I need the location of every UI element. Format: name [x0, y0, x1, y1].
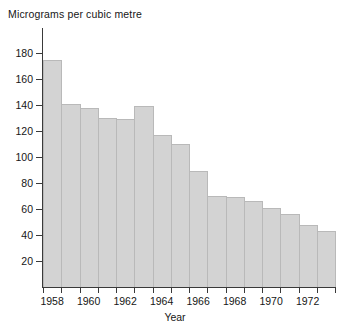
bar — [43, 60, 62, 288]
bar — [171, 144, 190, 287]
x-tick-label: 1972 — [296, 296, 319, 307]
x-tick-label: 1958 — [40, 296, 63, 307]
y-tick-label: 20 — [21, 256, 33, 266]
x-tick — [207, 288, 208, 293]
x-tick-label: 1966 — [186, 296, 209, 307]
x-tick — [134, 288, 135, 293]
bar — [189, 171, 208, 287]
bar — [80, 108, 99, 287]
bar — [134, 106, 153, 287]
y-tick — [36, 53, 42, 54]
y-tick-label: 40 — [21, 230, 33, 240]
x-tick-label: 1964 — [150, 296, 173, 307]
x-tick-label: 1968 — [223, 296, 246, 307]
bar — [116, 119, 135, 287]
y-tick-label: 120 — [15, 126, 33, 136]
y-tick — [36, 209, 42, 210]
y-tick — [36, 79, 42, 80]
bar — [207, 196, 226, 287]
y-tick-label: 180 — [15, 48, 33, 58]
x-tick-label: 1960 — [77, 296, 100, 307]
x-axis-title: Year — [0, 311, 350, 323]
bar — [244, 201, 263, 287]
x-tick — [189, 288, 190, 293]
y-tick — [36, 131, 42, 132]
x-tick — [43, 288, 44, 293]
bar-series — [43, 28, 336, 287]
bar — [317, 231, 336, 287]
bar — [262, 208, 281, 287]
y-tick — [36, 157, 42, 158]
y-tick — [36, 105, 42, 106]
y-tick-label: 160 — [15, 74, 33, 84]
x-tick — [317, 288, 318, 293]
x-tick — [153, 288, 154, 293]
y-tick — [36, 235, 42, 236]
x-tick — [226, 288, 227, 293]
bar — [153, 135, 172, 287]
x-tick-label: 1962 — [113, 296, 136, 307]
bar — [61, 104, 80, 287]
x-tick — [335, 288, 336, 293]
x-tick — [299, 288, 300, 293]
x-tick — [116, 288, 117, 293]
bar — [226, 197, 245, 287]
x-tick — [80, 288, 81, 293]
bar — [280, 214, 299, 287]
bar — [299, 225, 318, 287]
bar — [98, 118, 117, 287]
x-tick — [61, 288, 62, 293]
x-tick — [171, 288, 172, 293]
y-tick-label: 100 — [15, 152, 33, 162]
y-axis-title: Micrograms per cubic metre — [8, 8, 142, 20]
x-tick — [98, 288, 99, 293]
bar-chart: Micrograms per cubic metre 2040608010012… — [0, 0, 350, 326]
y-tick-label: 60 — [21, 204, 33, 214]
x-tick — [262, 288, 263, 293]
y-tick-label: 140 — [15, 100, 33, 110]
y-tick — [36, 261, 42, 262]
x-tick — [244, 288, 245, 293]
x-tick-label: 1970 — [259, 296, 282, 307]
y-tick — [36, 183, 42, 184]
y-tick-label: 80 — [21, 178, 33, 188]
x-tick — [280, 288, 281, 293]
